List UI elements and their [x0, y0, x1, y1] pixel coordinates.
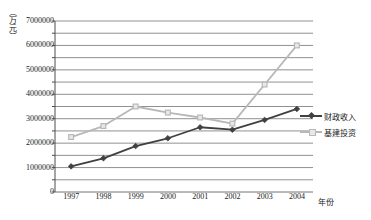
line-chart: （万元） 01000000200000030000004000000500000… — [0, 0, 371, 220]
x-axis-tick-labels: 19971998199920002001200220032004 — [0, 192, 371, 206]
x-axis-tick-label: 2004 — [282, 192, 312, 201]
x-axis-tick-label: 2003 — [250, 192, 280, 201]
legend-item[interactable]: 基建投资 — [300, 124, 371, 140]
x-axis-title: 年份 — [318, 196, 334, 207]
x-axis-tick-label: 1998 — [88, 192, 118, 201]
x-axis-tick-label: 1997 — [56, 192, 86, 201]
x-axis-tick-label: 2002 — [217, 192, 247, 201]
legend-diamond-marker-icon — [300, 111, 322, 121]
legend-item-label: 基建投资 — [324, 127, 356, 138]
legend-item[interactable]: 财政收入 — [300, 108, 371, 124]
legend-square-marker-icon — [300, 127, 322, 137]
legend: 财政收入基建投资 — [300, 108, 371, 140]
x-axis-tick-label: 2000 — [153, 192, 183, 201]
x-axis-tick-label: 1999 — [121, 192, 151, 201]
legend-item-label: 财政收入 — [324, 111, 356, 122]
x-axis-tick-label: 2001 — [185, 192, 215, 201]
